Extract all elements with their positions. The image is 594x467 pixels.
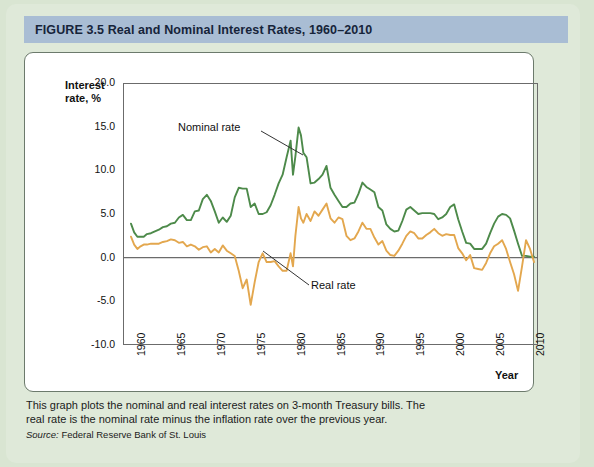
x-tick-label: 2000: [454, 333, 466, 356]
real-rate-label: Real rate: [311, 279, 356, 291]
figure-title: FIGURE 3.5 Real and Nominal Interest Rat…: [35, 23, 372, 37]
x-tick-label: 1995: [414, 333, 426, 356]
y-tick-label: 5.0: [71, 207, 115, 219]
y-tick-label: 10.0: [71, 163, 115, 175]
source-text: Federal Reserve Bank of St. Louis: [59, 429, 206, 440]
figure-title-bar: FIGURE 3.5 Real and Nominal Interest Rat…: [24, 16, 568, 43]
nominal-rate-label: Nominal rate: [178, 121, 240, 133]
x-tick-label: 1985: [335, 333, 347, 356]
x-tick-label: 1970: [215, 333, 227, 356]
source-word: Source:: [26, 429, 59, 440]
x-axis-title: Year: [495, 369, 518, 381]
x-tick-label: 1965: [175, 333, 187, 356]
figure-page: FIGURE 3.5 Real and Nominal Interest Rat…: [0, 0, 594, 467]
plot-area: -10.0-5.00.05.010.015.020.01960196519701…: [123, 83, 538, 345]
x-tick-label: 1980: [295, 333, 307, 356]
x-tick-label: 1990: [374, 333, 386, 356]
figure-source: Source: Federal Reserve Bank of St. Loui…: [26, 429, 446, 440]
y-tick-label: -5.0: [71, 294, 115, 306]
y-tick-label: 0.0: [71, 251, 115, 263]
chart-card: Interest rate, % Year -10.0-5.00.05.010.…: [24, 52, 534, 392]
figure-label: FIGURE: [35, 23, 83, 37]
y-tick-label: -10.0: [71, 338, 115, 350]
x-tick-label: 1960: [135, 333, 147, 356]
figure-caption: This graph plots the nominal and real in…: [26, 399, 446, 426]
x-tick-label: 1975: [255, 333, 267, 356]
x-tick-label: 2010: [534, 333, 546, 356]
figure-number: 3.5: [86, 23, 104, 37]
y-tick-label: 20.0: [71, 76, 115, 88]
y-tick-label: 15.0: [71, 120, 115, 132]
figure-title-text: Real and Nominal Interest Rates, 1960–20…: [108, 23, 373, 37]
x-tick-label: 2005: [494, 333, 506, 356]
